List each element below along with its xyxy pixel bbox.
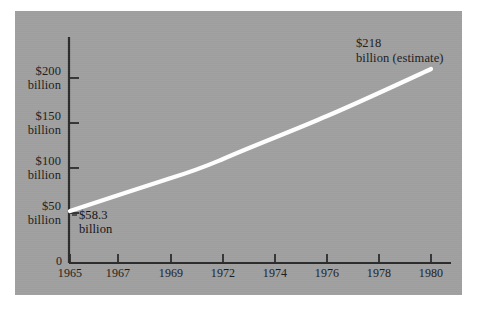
y-tick-label-100-unit: billion — [7, 169, 61, 183]
y-tick-label-200: $200 billion — [7, 65, 61, 92]
y-tick-label-150: $150 billion — [7, 110, 61, 137]
start-value-annotation-line2: billion — [79, 222, 112, 236]
series-line-spending — [70, 69, 431, 211]
chart-figure: $200 billion $150 billion $100 billion $… — [0, 0, 477, 318]
x-tick-label-1967: 1967 — [94, 267, 142, 281]
y-tick-label-50: $50 billion — [7, 200, 61, 227]
start-value-annotation: $58.3 billion — [79, 208, 112, 236]
end-value-annotation-line1: $218 — [356, 36, 444, 51]
x-tick-label-1974: 1974 — [251, 267, 299, 281]
y-tick-label-100-amount: $100 — [7, 155, 61, 169]
y-tick-label-200-amount: $200 — [7, 65, 61, 79]
y-tick-label-100: $100 billion — [7, 155, 61, 182]
x-tick-label-1965: 1965 — [46, 267, 94, 281]
x-tick-label-1976: 1976 — [303, 267, 351, 281]
x-tick-label-1980: 1980 — [407, 267, 455, 281]
start-value-annotation-line1: $58.3 — [79, 208, 112, 222]
y-tick-label-150-amount: $150 — [7, 110, 61, 124]
y-tick-label-50-amount: $50 — [7, 200, 61, 214]
x-tick-label-1972: 1972 — [199, 267, 247, 281]
x-tick-label-1969: 1969 — [147, 267, 195, 281]
x-tick-label-1978: 1978 — [355, 267, 403, 281]
y-tick-label-200-unit: billion — [7, 79, 61, 93]
y-tick-label-150-unit: billion — [7, 124, 61, 138]
end-value-annotation: $218 billion (estimate) — [356, 36, 444, 66]
end-value-annotation-line2: billion (estimate) — [356, 51, 444, 66]
plot-area: $200 billion $150 billion $100 billion $… — [15, 11, 462, 295]
chart-panel: $200 billion $150 billion $100 billion $… — [15, 11, 462, 295]
y-tick-label-50-unit: billion — [7, 214, 61, 228]
